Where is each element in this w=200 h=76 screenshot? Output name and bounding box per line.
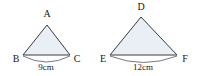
triangle-def-shape [110,17,177,55]
dimension-label-bc: 9cm [38,62,54,72]
vertex-label-c: C [74,53,81,64]
figure-canvas: A B C 9cm D E F 12cm [0,0,200,76]
vertex-label-e: E [100,53,106,64]
geometry-figure: A B C 9cm D E F 12cm [0,0,200,76]
vertex-label-f: F [182,53,188,64]
triangle-abc-shape [23,25,70,55]
dimension-label-ef: 12cm [133,62,153,72]
vertex-label-b: B [13,53,20,64]
vertex-label-d: D [137,1,144,12]
triangle-def-group: D E F 12cm [100,1,188,72]
vertex-label-a: A [43,8,51,19]
triangle-abc-group: A B C 9cm [13,8,81,72]
